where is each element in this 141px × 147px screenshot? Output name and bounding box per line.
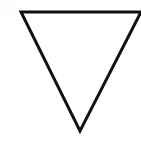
figure-canvas (0, 0, 141, 147)
figure-svg (0, 0, 141, 147)
inverted-triangle-shape (21, 12, 141, 131)
